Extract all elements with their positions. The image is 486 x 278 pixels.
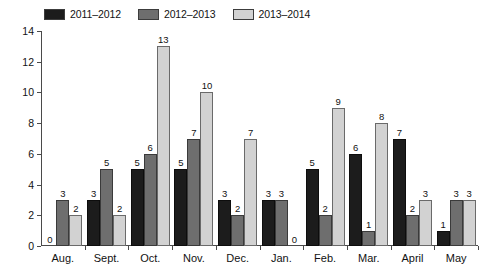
bar-slot: 6 [349,31,362,246]
x-axis-tick-label: Aug. [52,252,75,265]
bar-slot: 1 [437,31,450,246]
bar-value-label: 5 [178,158,183,167]
bar[interactable] [131,169,144,246]
bar-value-label: 3 [423,189,428,198]
bar-slot: 13 [157,31,170,246]
bar-value-label: 3 [91,189,96,198]
bar-value-label: 13 [158,35,169,44]
bar-value-label: 5 [135,158,140,167]
bar-value-label: 3 [266,189,271,198]
bar[interactable] [362,231,375,246]
x-axis-tick-label: Sept. [94,252,120,265]
legend-item-label: 2013–2014 [259,9,311,20]
bar-value-label: 3 [60,189,65,198]
bar[interactable] [218,200,231,246]
bar-value-label: 2 [322,204,327,213]
bar[interactable] [419,200,432,246]
bar-value-label: 0 [47,235,52,244]
bar-slot: 3 [275,31,288,246]
bar-slot: 3 [218,31,231,246]
x-axis-tick-label: April [401,252,423,265]
x-axis-tick [478,246,479,250]
bar[interactable] [100,169,113,246]
y-axis-tick-label: 12 [22,57,34,67]
bar-slot: 9 [332,31,345,246]
bar[interactable] [200,92,213,246]
bar-slot: 2 [319,31,332,246]
bar-value-label: 7 [191,128,196,137]
bar[interactable] [406,215,419,246]
bar[interactable] [157,46,170,246]
bar-value-label: 3 [279,189,284,198]
x-axis-tick-label: Jan. [271,252,292,265]
bar[interactable] [319,215,332,246]
bar-slot: 2 [69,31,82,246]
bar[interactable] [275,200,288,246]
bar[interactable] [437,231,450,246]
legend-item[interactable]: 2011–2012 [44,9,121,20]
bar[interactable] [144,154,157,246]
bar-slot: 0 [43,31,56,246]
x-axis-tick-label: Dec. [226,252,249,265]
bar[interactable] [174,169,187,246]
bar[interactable] [393,139,406,247]
y-axis-tick-label: 4 [28,180,34,190]
bar-slot: 5 [306,31,319,246]
bar-group: 5613 [128,31,172,246]
x-axis-tick [434,246,435,250]
bar[interactable] [187,139,200,247]
x-axis-tick [303,246,304,250]
bar-value-label: 7 [397,128,402,137]
bar[interactable] [87,200,100,246]
y-axis-tick-label: 8 [28,118,34,128]
bar[interactable] [56,200,69,246]
bar-slot: 7 [187,31,200,246]
bar-chart: 2011–20122012–20132013–2014 02468101214 … [0,0,486,278]
bar[interactable] [450,200,463,246]
y-axis-tick-label: 10 [22,87,34,97]
legend-item[interactable]: 2012–2013 [138,9,216,20]
bar-slot: 2 [406,31,419,246]
bar-value-label: 9 [335,97,340,106]
bar[interactable] [262,200,275,246]
bar-slot: 3 [262,31,275,246]
bar-value-label: 5 [104,158,109,167]
bar-slot: 3 [463,31,476,246]
bar-value-label: 3 [466,189,471,198]
bar[interactable] [113,215,126,246]
bar-slot: 3 [419,31,432,246]
bar-value-label: 0 [292,235,297,244]
bar-group: 723 [391,31,435,246]
bar[interactable] [349,154,362,246]
x-axis-tick-label: Mar. [358,252,379,265]
bar-slot: 7 [244,31,257,246]
x-axis-tick [172,246,173,250]
bar-slot: 2 [113,31,126,246]
x-axis-tick [128,246,129,250]
bar[interactable] [332,108,345,246]
bar-slot: 5 [174,31,187,246]
legend-item-label: 2012–2013 [164,9,216,20]
bar-group: 032 [41,31,85,246]
bar[interactable] [244,139,257,247]
legend-swatch-icon [44,9,65,20]
bar[interactable] [375,123,388,246]
bar-slot: 3 [87,31,100,246]
bar[interactable] [69,215,82,246]
bar[interactable] [231,215,244,246]
bar-value-label: 6 [148,143,153,152]
x-axis-labels: Aug.Sept.Oct.Nov.Dec.Jan.Feb.Mar.AprilMa… [41,252,478,268]
bar-slot: 2 [231,31,244,246]
bar[interactable] [306,169,319,246]
legend-item[interactable]: 2013–2014 [233,9,311,20]
bar-slot: 7 [393,31,406,246]
bar[interactable] [463,200,476,246]
y-axis-tick [37,246,41,247]
bar-value-label: 3 [222,189,227,198]
bar-slot: 10 [200,31,213,246]
y-axis-tick-label: 2 [28,210,34,220]
bar-value-label: 7 [248,128,253,137]
x-axis-tick [347,246,348,250]
bar-group: 618 [347,31,391,246]
bar-slot: 1 [362,31,375,246]
